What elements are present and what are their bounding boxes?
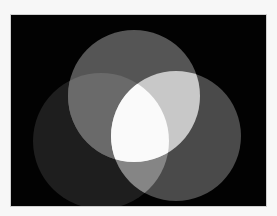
venn-circles-graphic — [11, 15, 267, 207]
image-frame — [10, 14, 267, 207]
